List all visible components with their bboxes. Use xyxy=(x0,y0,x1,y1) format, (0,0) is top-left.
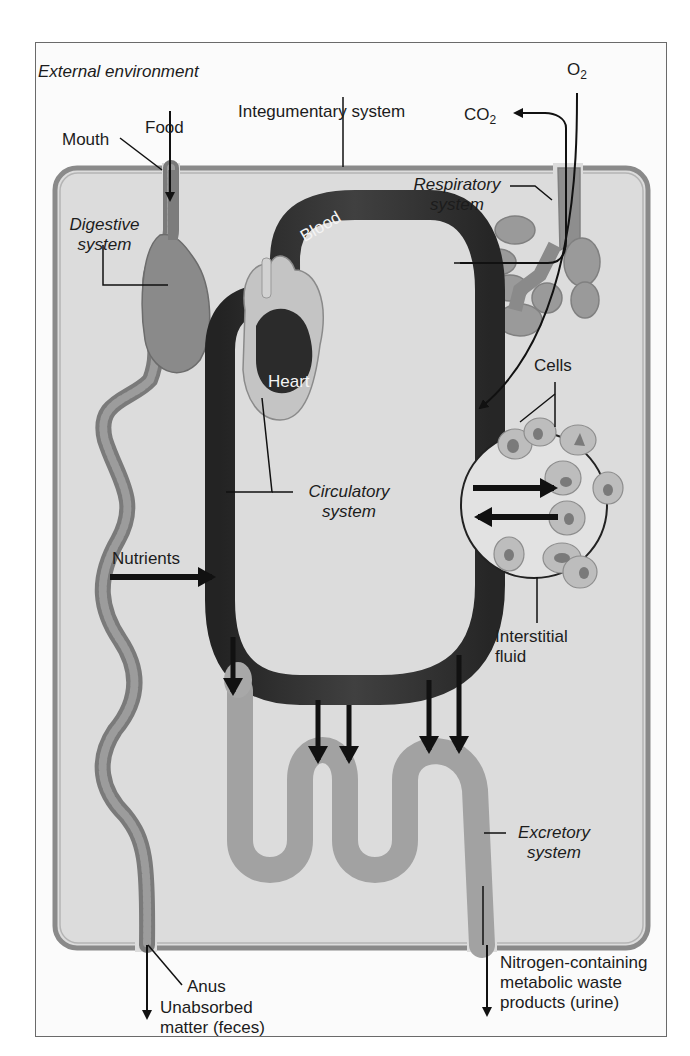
interstitial-fluid-label: Interstitial fluid xyxy=(495,627,568,667)
co2-text: CO xyxy=(464,105,490,124)
mouth-label: Mouth xyxy=(62,130,109,150)
excretory-label-line1: Excretory xyxy=(509,823,599,843)
urine-label-line3: products (urine) xyxy=(500,993,647,1013)
digestive-label-line2: system xyxy=(62,235,147,255)
o2-label: O2 xyxy=(567,60,587,85)
urine-label: Nitrogen-containing metabolic waste prod… xyxy=(500,953,647,1013)
feces-label: Unabsorbed matter (feces) xyxy=(160,998,265,1038)
urine-label-line1: Nitrogen-containing xyxy=(500,953,647,973)
heart-label: Heart xyxy=(268,372,310,392)
food-label: Food xyxy=(145,118,184,138)
circulatory-label-line2: system xyxy=(294,502,404,522)
respiratory-system-label: Respiratory system xyxy=(402,175,512,215)
digestive-system-label: Digestive system xyxy=(62,215,147,255)
external-environment-label: External environment xyxy=(38,62,199,82)
integumentary-system-label: Integumentary system xyxy=(238,102,405,122)
interstitial-label-line2: fluid xyxy=(495,647,568,667)
nutrients-label: Nutrients xyxy=(112,549,180,569)
circulatory-label-line1: Circulatory xyxy=(294,482,404,502)
excretory-system-label: Excretory system xyxy=(509,823,599,863)
urine-label-line2: metabolic waste xyxy=(500,973,647,993)
excretory-label-line2: system xyxy=(509,843,599,863)
organ-systems-diagram xyxy=(0,0,690,1056)
o2-text: O xyxy=(567,60,580,79)
digestive-label-line1: Digestive xyxy=(62,215,147,235)
cells-label: Cells xyxy=(534,356,572,376)
co2-subscript: 2 xyxy=(490,113,497,127)
respiratory-label-line2: system xyxy=(402,195,512,215)
feces-label-line1: Unabsorbed xyxy=(160,998,265,1018)
feces-label-line2: matter (feces) xyxy=(160,1018,265,1038)
circulatory-system-label: Circulatory system xyxy=(294,482,404,522)
o2-subscript: 2 xyxy=(580,68,587,82)
anus-label: Anus xyxy=(187,977,226,997)
co2-label: CO2 xyxy=(464,105,496,130)
respiratory-label-line1: Respiratory xyxy=(402,175,512,195)
interstitial-label-line1: Interstitial xyxy=(495,627,568,647)
